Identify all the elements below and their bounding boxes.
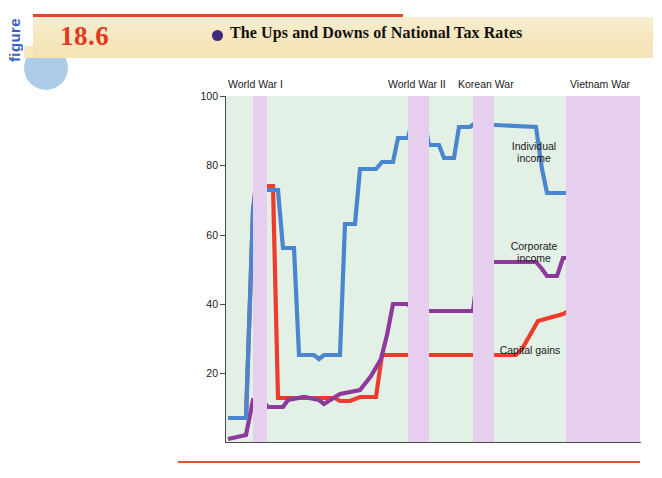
y-tick-label-80: 80 — [190, 159, 218, 171]
war-label-world-war-ii: World War II — [388, 78, 446, 90]
y-tick-80 — [220, 165, 225, 166]
series-label-capital-gains: Capital gains — [488, 344, 572, 356]
war-band-vietnam-war — [566, 96, 640, 442]
war-label-vietnam-war: Vietnam War — [570, 78, 630, 90]
y-tick-40 — [220, 304, 225, 305]
x-axis-line — [225, 442, 641, 443]
war-label-world-war-i: World War I — [228, 78, 283, 90]
y-axis-title: Top percentage rates — [0, 232, 117, 331]
y-tick-label-60: 60 — [190, 229, 218, 241]
y-tick-label-20: 20 — [190, 367, 218, 379]
chart-container: 100 80 60 40 20 Top percentage rates Wor… — [0, 0, 662, 478]
y-tick-60 — [220, 235, 225, 236]
war-band-world-war-i — [253, 96, 267, 442]
series-label-corporate-income: Corporate income — [498, 240, 570, 264]
plot-area — [226, 96, 640, 442]
y-axis-line — [225, 96, 226, 443]
war-band-world-war-ii — [408, 96, 429, 442]
war-label-korean-war: Korean War — [458, 78, 514, 90]
y-tick-20 — [220, 373, 225, 374]
y-tick-100 — [220, 96, 225, 97]
y-tick-label-40: 40 — [190, 298, 218, 310]
bottom-rule — [178, 461, 640, 463]
series-label-individual-income: Individual income — [498, 140, 570, 164]
y-tick-label-100: 100 — [190, 90, 218, 102]
war-band-korean-war — [473, 96, 494, 442]
